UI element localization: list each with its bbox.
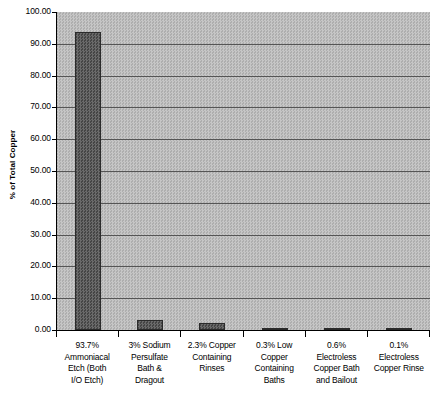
bar-chart: % of Total Copper 100.0090.0080.0070.006… bbox=[0, 0, 436, 404]
y-axis-tick-label: 30.00 bbox=[30, 230, 51, 239]
x-axis-category-label-line: Persulfate bbox=[119, 352, 179, 364]
bar bbox=[386, 328, 412, 330]
bar bbox=[324, 328, 350, 330]
x-axis-category-label-line: and Bailout bbox=[306, 375, 366, 387]
x-axis-category-label-line: Electroless bbox=[369, 352, 429, 364]
y-axis-tick-labels: 100.0090.0080.0070.0060.0050.0040.0030.0… bbox=[0, 0, 56, 340]
y-axis-tick-label: 80.00 bbox=[30, 71, 51, 80]
y-axis-tick-label: 0.00 bbox=[35, 325, 51, 334]
bar bbox=[75, 32, 101, 330]
x-axis-category-label-line: Electroless bbox=[306, 352, 366, 364]
x-axis-category-label: 2.3% CopperContainingRinses bbox=[181, 340, 243, 402]
x-axis-category-label-line: 0.1% bbox=[369, 340, 429, 352]
x-axis-category-label-line: Dragout bbox=[119, 375, 179, 387]
x-axis-category-label-line: 0.6% bbox=[306, 340, 366, 352]
x-axis-tick-mark bbox=[305, 331, 306, 337]
x-axis-tick-mark bbox=[243, 331, 244, 337]
x-axis-category-labels: 93.7%AmmoniacalEtch (BothI/O Etch)3% Sod… bbox=[56, 340, 430, 402]
x-axis-tick-mark bbox=[367, 331, 368, 337]
y-axis-tick-label: 70.00 bbox=[30, 102, 51, 111]
x-axis-category-label-line: 93.7% bbox=[57, 340, 117, 352]
bar bbox=[137, 320, 163, 330]
plot-area bbox=[56, 12, 430, 331]
x-axis-tick-marks bbox=[56, 331, 430, 337]
x-axis-tick-mark bbox=[118, 331, 119, 337]
x-axis-tick-mark bbox=[180, 331, 181, 337]
x-axis-category-label-line: Ammoniacal bbox=[57, 352, 117, 364]
x-axis-category-label-line: 0.3% Low bbox=[244, 340, 304, 352]
x-axis-category-label: 0.3% LowCopperContainingBaths bbox=[243, 340, 305, 402]
x-axis-category-label-line: 2.3% Copper bbox=[182, 340, 242, 352]
x-axis-category-label-line: I/O Etch) bbox=[57, 375, 117, 387]
x-axis-category-label-line: Bath & bbox=[119, 363, 179, 375]
x-axis-category-label-line: Copper bbox=[244, 352, 304, 364]
y-axis-tick-label: 90.00 bbox=[30, 39, 51, 48]
x-axis-category-label-line: Rinses bbox=[182, 363, 242, 375]
x-axis-category-label: 0.6%ElectrolessCopper Bathand Bailout bbox=[305, 340, 367, 402]
x-axis-category-label-line: Etch (Both bbox=[57, 363, 117, 375]
x-axis-tick-mark bbox=[429, 331, 430, 337]
y-axis-tick-label: 50.00 bbox=[30, 166, 51, 175]
bar bbox=[199, 323, 225, 330]
x-axis-category-label-line: Containing bbox=[244, 363, 304, 375]
x-axis-category-label: 93.7%AmmoniacalEtch (BothI/O Etch) bbox=[56, 340, 118, 402]
x-axis-category-label-line: Containing bbox=[182, 352, 242, 364]
y-axis-tick-label: 10.00 bbox=[30, 293, 51, 302]
x-axis-category-label-line: 3% Sodium bbox=[119, 340, 179, 352]
bar bbox=[262, 328, 288, 330]
x-axis-category-label-line: Copper Bath bbox=[306, 363, 366, 375]
y-axis-tick-label: 40.00 bbox=[30, 198, 51, 207]
bars-group bbox=[57, 12, 430, 330]
x-axis-tick-mark bbox=[56, 331, 57, 337]
x-axis-category-label-line: Copper Rinse bbox=[369, 363, 429, 375]
x-axis-category-label-line: Baths bbox=[244, 375, 304, 387]
y-axis-tick-label: 60.00 bbox=[30, 134, 51, 143]
y-axis-tick-label: 20.00 bbox=[30, 261, 51, 270]
x-axis-category-label: 0.1%ElectrolessCopper Rinse bbox=[368, 340, 430, 402]
x-axis-category-label: 3% SodiumPersulfateBath &Dragout bbox=[118, 340, 180, 402]
y-axis-tick-label: 100.00 bbox=[26, 7, 51, 16]
